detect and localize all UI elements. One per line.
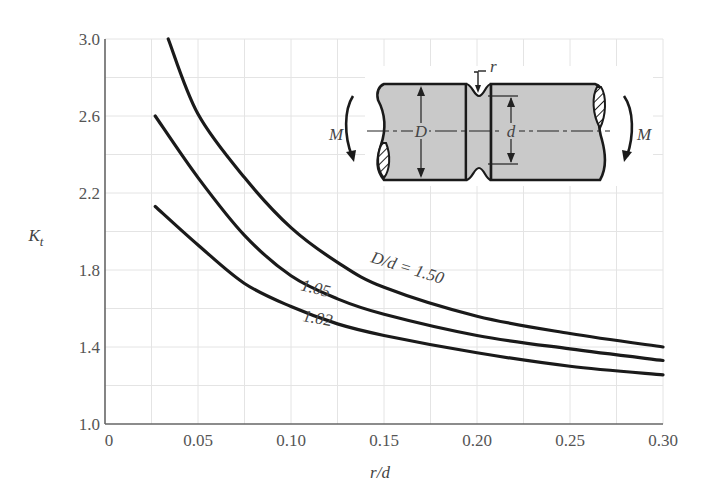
y-tick-labels: 1.01.41.82.22.63.0 (79, 30, 101, 434)
series-labels: D/d = 1.501.051.02 (299, 247, 447, 330)
shaft-groove (466, 84, 491, 180)
x-tick-label: 0.30 (648, 431, 678, 450)
left-moment-arrow (346, 96, 353, 156)
series-label-0: D/d = 1.50 (368, 247, 447, 288)
y-tick-label: 3.0 (79, 30, 100, 49)
y-axis-label: Kt (28, 226, 44, 249)
x-axis-label: r/d (370, 463, 390, 482)
x-tick-label: 0 (105, 431, 114, 450)
right-M-label: M (636, 125, 652, 144)
stress-concentration-chart: 00.050.100.150.200.250.30 1.01.41.82.22.… (0, 0, 721, 500)
left-cross-section-hatch (378, 143, 389, 178)
arrowhead-icon (346, 150, 356, 162)
shaft-diagram: D d r M M (328, 57, 653, 186)
y-tick-label: 1.0 (79, 415, 100, 434)
series-label-1: 1.05 (299, 275, 332, 301)
y-tick-label: 1.8 (79, 261, 100, 280)
series-label-2: 1.02 (301, 306, 334, 330)
D-label: D (414, 122, 428, 141)
x-tick-label: 0.20 (462, 431, 492, 450)
x-tick-label: 0.10 (276, 431, 306, 450)
y-tick-label: 2.2 (79, 184, 100, 203)
x-tick-label: 0.15 (369, 431, 399, 450)
r-label: r (490, 57, 497, 76)
x-tick-labels: 00.050.100.150.200.250.30 (105, 431, 678, 450)
x-tick-label: 0.05 (183, 431, 213, 450)
x-tick-label: 0.25 (555, 431, 585, 450)
y-tick-label: 2.6 (79, 107, 100, 126)
d-label: d (507, 122, 516, 141)
left-M-label: M (328, 125, 344, 144)
y-tick-label: 1.4 (79, 338, 101, 357)
